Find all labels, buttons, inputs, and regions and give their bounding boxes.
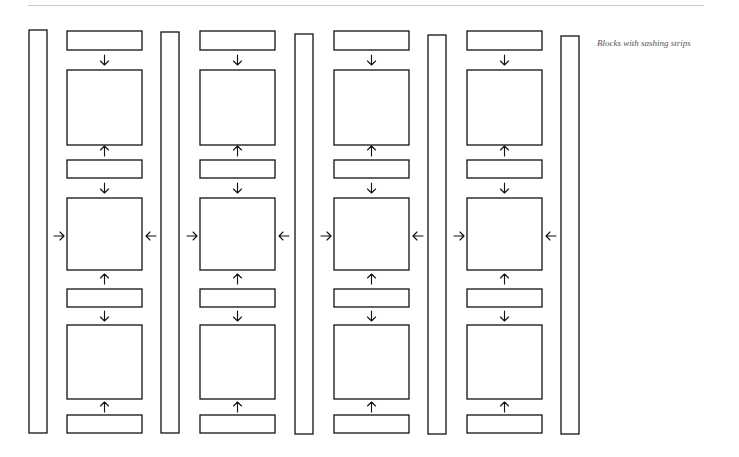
horizontal-sashing-strip (67, 415, 142, 433)
horizontal-sashing-strip (200, 289, 275, 307)
horizontal-sashing-strip (67, 289, 142, 307)
arrow-up-icon (101, 402, 109, 412)
arrow-down-icon (501, 183, 509, 193)
arrow-right-icon (187, 232, 197, 240)
arrow-up-icon (368, 274, 376, 284)
horizontal-sashing-strip (200, 160, 275, 178)
horizontal-sashing-strip (334, 289, 409, 307)
vertical-sashing-strip (161, 32, 179, 433)
arrow-down-icon (368, 55, 376, 65)
arrow-left-icon (279, 232, 289, 240)
quilt-block (67, 325, 142, 399)
arrow-up-icon (234, 274, 242, 284)
horizontal-sashing-strip (467, 160, 542, 178)
vertical-sashing-strip (561, 36, 579, 434)
arrow-up-icon (101, 274, 109, 284)
horizontal-sashing-strip (200, 31, 275, 50)
arrow-up-icon (501, 274, 509, 284)
arrow-up-icon (234, 402, 242, 412)
arrow-right-icon (54, 232, 64, 240)
arrow-down-icon (368, 311, 376, 321)
arrow-down-icon (101, 55, 109, 65)
arrow-up-icon (368, 402, 376, 412)
arrow-down-icon (368, 183, 376, 193)
horizontal-sashing-strip (334, 160, 409, 178)
quilt-block (67, 198, 142, 270)
horizontal-sashing-strip (334, 31, 409, 50)
vertical-sashing-strip (428, 35, 446, 434)
horizontal-sashing-strip (67, 160, 142, 178)
horizontal-sashing-strip (200, 415, 275, 433)
quilt-block (200, 325, 275, 399)
arrow-down-icon (101, 311, 109, 321)
quilt-block (467, 325, 542, 399)
arrow-up-icon (234, 146, 242, 156)
horizontal-sashing-strip (467, 415, 542, 433)
arrow-right-icon (454, 232, 464, 240)
quilt-block (334, 198, 409, 270)
quilt-block (67, 70, 142, 145)
arrow-right-icon (321, 232, 331, 240)
arrow-down-icon (234, 183, 242, 193)
quilt-block (334, 325, 409, 399)
arrow-left-icon (146, 232, 156, 240)
quilt-block (200, 198, 275, 270)
horizontal-sashing-strip (334, 415, 409, 433)
quilt-block (467, 70, 542, 145)
arrow-up-icon (368, 146, 376, 156)
arrow-up-icon (101, 146, 109, 156)
arrow-down-icon (234, 311, 242, 321)
arrow-up-icon (501, 402, 509, 412)
horizontal-sashing-strip (467, 289, 542, 307)
vertical-sashing-strip (295, 34, 313, 434)
horizontal-sashing-strip (467, 31, 542, 50)
sashing-diagram (0, 0, 739, 457)
horizontal-sashing-strip (67, 31, 142, 50)
arrow-down-icon (501, 311, 509, 321)
quilt-block (200, 70, 275, 145)
arrow-down-icon (101, 183, 109, 193)
arrow-left-icon (546, 232, 556, 240)
arrow-down-icon (234, 55, 242, 65)
arrow-left-icon (413, 232, 423, 240)
quilt-block (334, 70, 409, 145)
arrow-up-icon (501, 146, 509, 156)
arrow-down-icon (501, 55, 509, 65)
vertical-sashing-strip (29, 30, 47, 433)
quilt-block (467, 198, 542, 270)
